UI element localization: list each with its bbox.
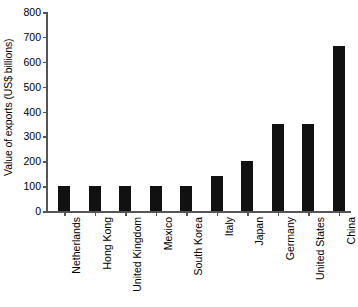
y-axis-tick-labels: 0100200300400500600700800 (18, 0, 44, 307)
y-axis-tick-mark (43, 186, 47, 188)
y-axis-tick-label: 800 (23, 7, 41, 18)
bar (302, 124, 314, 211)
bar (150, 186, 162, 211)
y-axis-tick-label: 600 (23, 57, 41, 68)
y-axis-tick-label: 100 (23, 181, 41, 192)
y-axis-tick-mark (43, 37, 47, 39)
y-axis-tick-label: 400 (23, 106, 41, 117)
x-axis-tick-label: South Korea (192, 213, 205, 307)
x-axis-tick-label: Mexico (162, 213, 175, 307)
y-axis-tick-mark (43, 136, 47, 138)
x-axis-tick-label: Italy (223, 213, 236, 307)
y-axis-tick-mark (43, 12, 47, 14)
y-axis-tick-label: 0 (35, 206, 41, 217)
y-axis-title: Value of exports (US$ billions) (0, 0, 18, 215)
y-axis-tick-mark (43, 161, 47, 163)
bar (211, 176, 223, 211)
bar (272, 124, 284, 211)
y-axis-tick-label: 300 (23, 131, 41, 142)
y-axis-tick-mark (43, 112, 47, 114)
bar (58, 186, 70, 211)
x-axis-tick-label: United Kingdom (131, 213, 144, 307)
x-axis-tick-label: Japan (253, 213, 266, 307)
x-axis-tick-label: Netherlands (70, 213, 83, 307)
y-axis-line (46, 12, 48, 211)
bar (241, 161, 253, 211)
x-axis-tick-label: China (345, 213, 358, 307)
y-axis-tick-label: 700 (23, 32, 41, 43)
x-axis-category-labels: NetherlandsHong KongUnited KingdomMexico… (46, 213, 351, 307)
plot-area (46, 12, 351, 211)
y-axis-tick-label: 500 (23, 81, 41, 92)
x-axis-tick-label: United States (314, 213, 327, 307)
y-axis-tick-label: 200 (23, 156, 41, 167)
bar (89, 186, 101, 211)
x-axis-tick-label: Hong Kong (101, 213, 114, 307)
bar (119, 186, 131, 211)
y-axis-tick-mark (43, 62, 47, 64)
y-axis-title-text: Value of exports (US$ billions) (4, 39, 15, 176)
bar (333, 46, 345, 211)
y-axis-tick-mark (43, 87, 47, 89)
bar (180, 186, 192, 211)
x-axis-tick-label: Germany (284, 213, 297, 307)
